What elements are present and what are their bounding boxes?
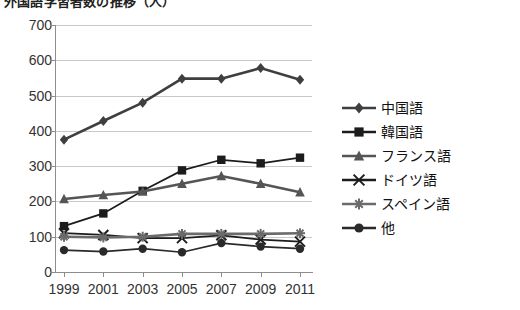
grid-line [56, 96, 312, 97]
y-axis-tick [50, 201, 55, 202]
legend-item-1: 韓国語 [340, 120, 516, 144]
grid-line [56, 25, 312, 26]
y-axis-tick-label: 600 [6, 53, 52, 67]
legend-item-label: スペイン語 [381, 197, 450, 211]
chart-title-clipped: 外国語学習者数の推移（人） [0, 0, 520, 11]
x-axis-tick [221, 272, 222, 277]
x-axis-line [55, 272, 313, 273]
legend-item-label: 他 [381, 221, 395, 235]
y-axis-tick-label: 700 [6, 18, 52, 32]
grid-line [56, 131, 312, 132]
grid-line [56, 166, 312, 167]
y-axis-tick-label: 100 [6, 230, 52, 244]
plot-area [56, 25, 312, 272]
y-axis-tick-label: 500 [6, 89, 52, 103]
y-axis-tick [50, 60, 55, 61]
y-axis-tick-label: 300 [6, 159, 52, 173]
x-axis-tick [103, 272, 104, 277]
x-axis-tick [300, 272, 301, 277]
y-axis-tick-label: 0 [6, 265, 52, 279]
x-axis-tick-label: 2011 [272, 282, 328, 296]
diamond-icon [340, 97, 378, 119]
y-axis-tick [50, 131, 55, 132]
data-point-circle [354, 223, 363, 232]
legend-item-4: スペイン語 [340, 192, 516, 216]
data-point-diamond [354, 103, 363, 114]
legend-item-5: 他 [340, 216, 516, 240]
legend-item-label: ドイツ語 [381, 173, 437, 187]
x-axis-tick [261, 272, 262, 277]
y-axis-tick [50, 25, 55, 26]
legend-item-3: ドイツ語 [340, 168, 516, 192]
legend-item-label: 韓国語 [381, 125, 423, 139]
legend-item-2: フランス語 [340, 144, 516, 168]
legend-item-label: 中国語 [381, 101, 423, 115]
chart-title: 外国語学習者数の推移（人） [4, 0, 176, 10]
line-chart: 外国語学習者数の推移（人） 0100200300400500600700 199… [0, 0, 520, 310]
y-axis-tick [50, 96, 55, 97]
legend-item-label: フランス語 [381, 149, 451, 163]
grid-line [56, 201, 312, 202]
data-point-asterisk [354, 199, 365, 210]
grid-line [56, 237, 312, 238]
square-icon [340, 121, 378, 143]
y-axis-tick-label: 400 [6, 124, 52, 138]
circle-icon [340, 217, 378, 239]
y-axis-tick [50, 166, 55, 167]
grid-line [56, 60, 312, 61]
chart-legend: 中国語韓国語フランス語ドイツ語スペイン語他 [340, 96, 516, 240]
cross-icon [340, 169, 378, 191]
data-point-square [354, 127, 363, 136]
y-axis-tick [50, 237, 55, 238]
triangle-icon [340, 145, 378, 167]
x-axis-tick [182, 272, 183, 277]
legend-item-0: 中国語 [340, 96, 516, 120]
y-axis-tick [50, 272, 55, 273]
y-axis-tick-label: 200 [6, 194, 52, 208]
asterisk-icon [340, 193, 378, 215]
x-axis-tick [143, 272, 144, 277]
x-axis-tick [64, 272, 65, 277]
